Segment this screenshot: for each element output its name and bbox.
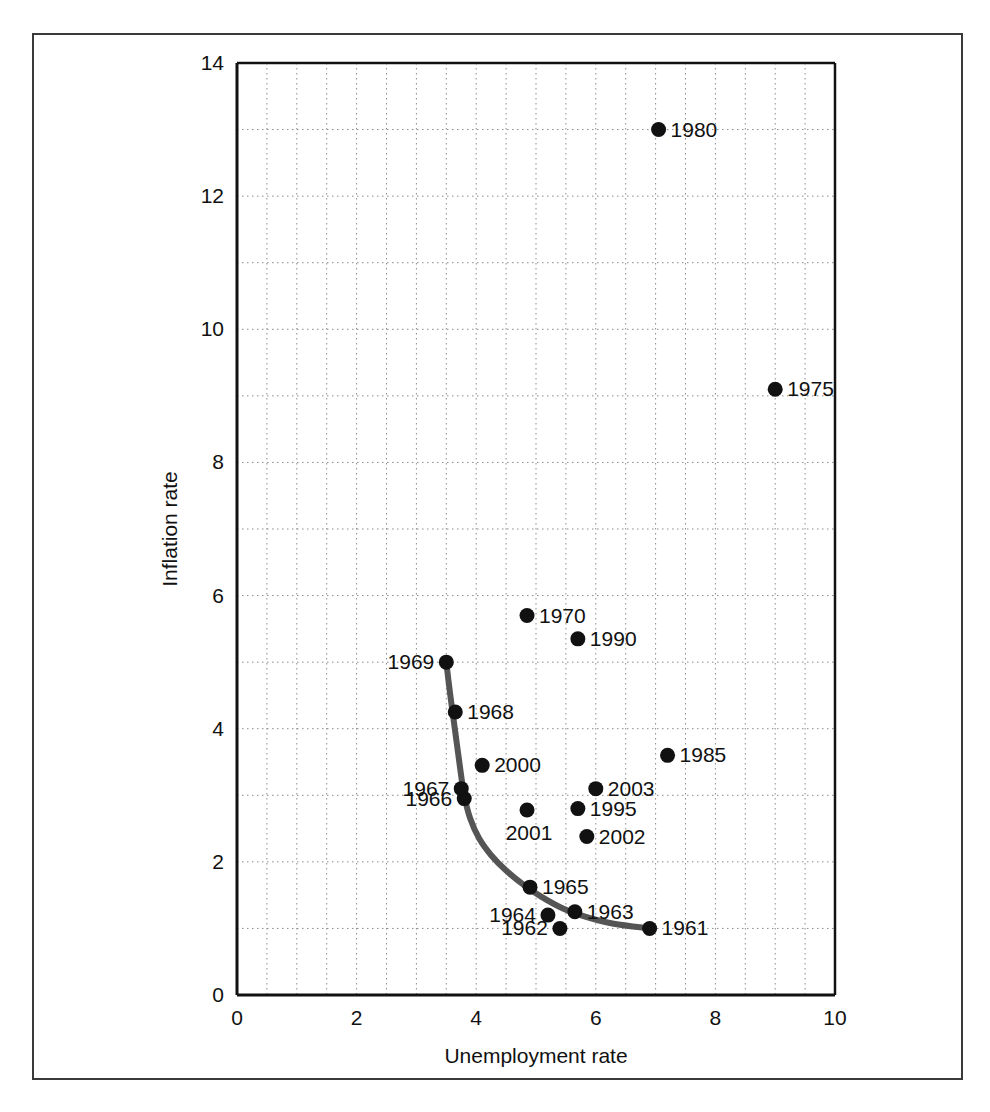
data-point-1961[interactable] — [642, 921, 657, 936]
data-point-label-2001: 2001 — [506, 821, 553, 844]
data-point-2000[interactable] — [475, 758, 490, 773]
scatter-plot-canvas: 024681002468101214Unemployment rateInfla… — [0, 0, 990, 1112]
data-point-1980[interactable] — [651, 122, 666, 137]
data-point-label-1975: 1975 — [787, 377, 834, 400]
data-point-label-1967: 1967 — [403, 777, 450, 800]
x-tick-label: 6 — [590, 1006, 602, 1029]
data-point-1969[interactable] — [439, 655, 454, 670]
x-tick-label: 4 — [470, 1006, 482, 1029]
y-tick-label: 10 — [201, 317, 224, 340]
y-tick-label: 2 — [212, 850, 224, 873]
x-tick-label: 8 — [710, 1006, 722, 1029]
data-point-1968[interactable] — [448, 705, 463, 720]
data-point-1975[interactable] — [768, 382, 783, 397]
data-point-label-1968: 1968 — [467, 700, 514, 723]
data-point-2001[interactable] — [520, 802, 535, 817]
data-point-label-1985: 1985 — [680, 743, 727, 766]
data-point-label-2003: 2003 — [608, 777, 655, 800]
data-point-1962[interactable] — [552, 921, 567, 936]
data-point-1970[interactable] — [520, 608, 535, 623]
data-point-label-1969: 1969 — [388, 650, 435, 673]
y-tick-label: 12 — [201, 184, 224, 207]
data-point-1963[interactable] — [567, 904, 582, 919]
data-point-2002[interactable] — [579, 829, 594, 844]
data-point-1990[interactable] — [570, 631, 585, 646]
data-point-label-1995: 1995 — [590, 797, 637, 820]
data-point-label-1970: 1970 — [539, 604, 586, 627]
x-tick-label: 10 — [823, 1006, 846, 1029]
y-tick-label: 6 — [212, 584, 224, 607]
data-point-label-1990: 1990 — [590, 627, 637, 650]
y-tick-label: 8 — [212, 450, 224, 473]
data-point-label-2000: 2000 — [494, 753, 541, 776]
x-tick-label: 2 — [351, 1006, 363, 1029]
phillips-curve-chart: 024681002468101214Unemployment rateInfla… — [0, 0, 990, 1112]
data-point-1965[interactable] — [523, 880, 538, 895]
data-point-label-1964: 1964 — [489, 903, 536, 926]
data-point-label-1965: 1965 — [542, 875, 589, 898]
data-point-label-1963: 1963 — [587, 900, 634, 923]
data-point-label-2002: 2002 — [599, 825, 646, 848]
data-point-2003[interactable] — [588, 781, 603, 796]
data-point-1967[interactable] — [454, 781, 469, 796]
y-tick-label: 0 — [212, 983, 224, 1006]
y-axis-title: Inflation rate — [158, 471, 181, 587]
data-point-1995[interactable] — [570, 801, 585, 816]
data-point-1985[interactable] — [660, 748, 675, 763]
x-tick-label: 0 — [231, 1006, 243, 1029]
data-point-label-1980: 1980 — [671, 118, 718, 141]
y-tick-label: 14 — [201, 51, 225, 74]
x-axis-title: Unemployment rate — [444, 1044, 627, 1067]
data-point-1964[interactable] — [540, 908, 555, 923]
y-tick-label: 4 — [212, 717, 224, 740]
data-point-label-1961: 1961 — [662, 916, 709, 939]
